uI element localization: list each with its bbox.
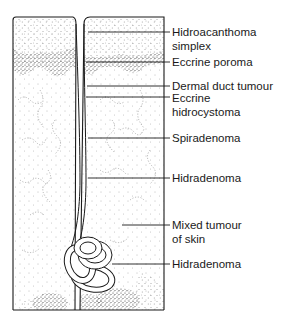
label-eccrine-poroma: Eccrine poroma: [172, 56, 253, 69]
label-hidroacanthoma-simplex: Hidroacanthoma simplex: [172, 26, 256, 53]
label-hidradenoma-upper: Hidradenoma: [172, 172, 241, 185]
label-mixed-tumour-of-skin: Mixed tumour of skin: [172, 219, 242, 246]
label-spiradenoma: Spiradenoma: [172, 132, 240, 145]
label-eccrine-hidrocystoma: Eccrine hidrocystoma: [172, 92, 240, 119]
label-hidradenoma-lower: Hidradenoma: [172, 258, 241, 271]
